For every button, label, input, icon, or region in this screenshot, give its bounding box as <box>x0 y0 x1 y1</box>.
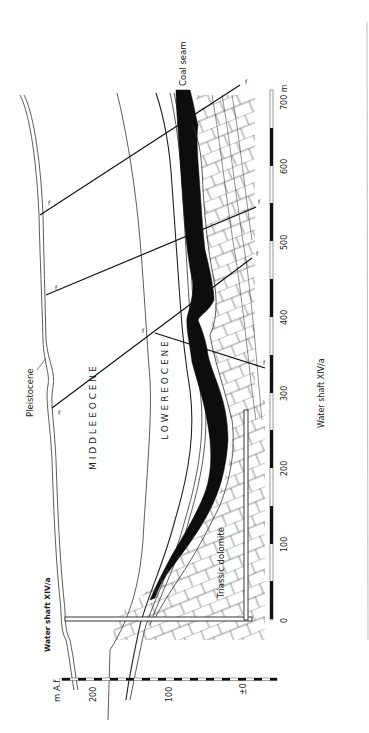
svg-text:100: 100 <box>280 537 289 552</box>
svg-text:f: f <box>48 199 51 206</box>
svg-text:300: 300 <box>280 386 289 401</box>
pleistocene-leader <box>37 358 46 370</box>
svg-text:f: f <box>256 250 259 257</box>
svg-text:f: f <box>263 359 266 366</box>
svg-text:f: f <box>245 78 248 85</box>
coal-seam-label: Coal seam <box>178 41 188 86</box>
middle-eocene-label: M I D D L E E O C E N E <box>88 366 98 470</box>
svg-text:f: f <box>58 409 61 416</box>
elevation-scale-labels: m A.f. 200 100 ±0 <box>52 678 248 702</box>
page-rule <box>367 22 368 640</box>
svg-text:0: 0 <box>280 618 289 623</box>
svg-text:500: 500 <box>280 235 289 250</box>
water-shaft-top-label: Water shaft XIV/a <box>43 577 52 652</box>
triassic-dolomite-label: Triassic dolomite <box>216 527 226 599</box>
svg-text:m A.f.: m A.f. <box>52 678 62 702</box>
geological-cross-section: f f f f f f f f Coal seam Pleistocene M … <box>0 0 369 733</box>
svg-text:200: 200 <box>89 687 98 702</box>
distance-scale-labels: 0 100 200 300 400 500 600 700 m <box>280 84 289 623</box>
svg-text:400: 400 <box>280 310 289 325</box>
svg-text:700 m: 700 m <box>280 84 289 110</box>
svg-text:600: 600 <box>280 159 289 174</box>
water-shaft-bottom-label: Water shaft XIV/a <box>317 358 326 428</box>
svg-text:f: f <box>258 198 261 205</box>
svg-text:f: f <box>142 327 145 334</box>
svg-text:±0: ±0 <box>239 683 248 695</box>
elevation-scale-bar <box>62 678 277 681</box>
svg-text:200: 200 <box>280 461 289 476</box>
pleistocene-label: Pleistocene <box>25 368 35 417</box>
lower-eocene-label: L O W E R E O C E N E <box>160 341 170 440</box>
svg-text:100: 100 <box>165 687 174 702</box>
distance-scale-bar <box>270 90 273 620</box>
